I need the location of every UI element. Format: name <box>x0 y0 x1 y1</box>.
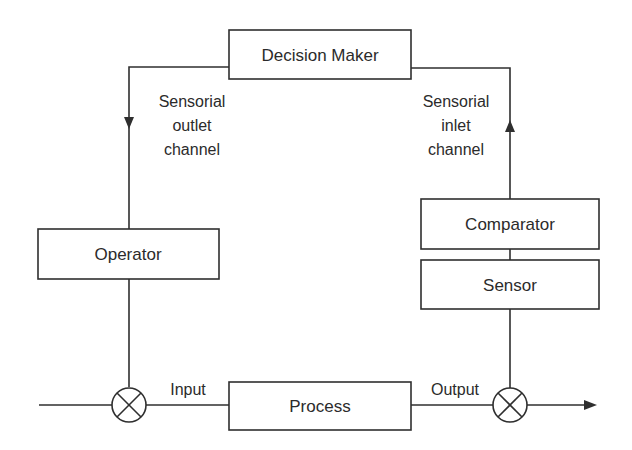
arrow-down-icon <box>124 117 134 129</box>
outlet-label-line2: outlet <box>172 117 212 134</box>
comparator-block: Comparator <box>421 199 599 249</box>
decision-maker-label: Decision Maker <box>261 46 378 65</box>
arrow-right-icon <box>584 400 597 410</box>
sensorial-outlet-channel-label: Sensorial outlet channel <box>159 93 226 158</box>
output-label: Output <box>431 381 480 398</box>
decision-maker-block: Decision Maker <box>229 30 411 79</box>
outlet-label-line3: channel <box>164 141 220 158</box>
inlet-label-line1: Sensorial <box>423 93 490 110</box>
inlet-label-line2: inlet <box>441 117 471 134</box>
process-label: Process <box>289 397 350 416</box>
summing-junction-output <box>493 388 527 422</box>
outlet-label-line1: Sensorial <box>159 93 226 110</box>
comparator-label: Comparator <box>465 215 555 234</box>
process-block: Process <box>229 382 411 430</box>
block-diagram: Decision Maker Operator Comparator Senso… <box>0 0 632 450</box>
sensor-block: Sensor <box>421 260 599 309</box>
inlet-label-line3: channel <box>428 141 484 158</box>
operator-block: Operator <box>38 229 219 279</box>
arrow-up-icon <box>505 120 515 132</box>
sensor-label: Sensor <box>483 276 537 295</box>
operator-label: Operator <box>94 245 161 264</box>
sensorial-inlet-channel-label: Sensorial inlet channel <box>423 93 490 158</box>
summing-junction-input <box>112 388 146 422</box>
input-label: Input <box>170 381 206 398</box>
